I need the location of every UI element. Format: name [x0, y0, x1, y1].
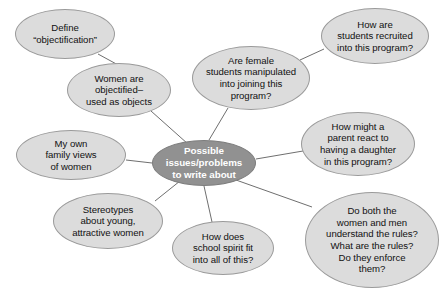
node-label: My own family views of women: [39, 138, 102, 173]
node-rules-enforcement[interactable]: Do both the women and men understand the…: [305, 192, 439, 288]
node-label: Stereotypes about young, attractive wome…: [66, 204, 150, 239]
edge-rules-to-hub: [236, 180, 312, 207]
node-students-recruited[interactable]: How are students recruited into this pro…: [321, 8, 429, 64]
node-women-objectified[interactable]: Women are objectified– used as objects: [67, 63, 171, 117]
edge-spirit-to-hub: [204, 186, 212, 222]
edge-stereotypes-to-hub: [155, 181, 180, 201]
node-stereotypes[interactable]: Stereotypes about young, attractive wome…: [53, 193, 163, 249]
node-define-objectification[interactable]: Define “objectification”: [15, 9, 115, 59]
node-label: Possible issues/problems to write about: [160, 145, 249, 182]
node-female-students-manipulated[interactable]: Are female students manipulated into joi…: [192, 46, 310, 110]
hub-node-hub[interactable]: Possible issues/problems to write about: [152, 140, 256, 186]
edge-female-to-hub: [209, 108, 228, 140]
node-school-spirit[interactable]: How does school spirit fit into all of t…: [172, 221, 274, 275]
node-label: How are students recruited into this pro…: [331, 19, 419, 54]
node-parent-react[interactable]: How might a parent react to having a dau…: [301, 112, 415, 176]
node-label: Do both the women and men understand the…: [320, 205, 424, 275]
node-label: Women are objectified– used as objects: [80, 73, 158, 108]
edge-women-to-hub: [151, 111, 188, 144]
edge-family-to-hub: [126, 160, 152, 163]
node-label: How might a parent react to having a dau…: [314, 121, 402, 167]
edge-parent-to-hub: [256, 151, 303, 159]
node-label: How does school spirit fit into all of t…: [187, 231, 259, 266]
concept-map-canvas: Define “objectification”Women are object…: [0, 0, 444, 291]
node-family-views[interactable]: My own family views of women: [16, 130, 126, 180]
node-label: Define “objectification”: [27, 22, 103, 45]
node-label: Are female students manipulated into joi…: [200, 55, 302, 101]
edge-recruited-to-female: [300, 49, 324, 60]
